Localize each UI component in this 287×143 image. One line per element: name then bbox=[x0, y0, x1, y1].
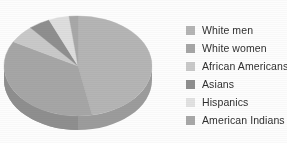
legend-swatch-icon bbox=[186, 26, 195, 35]
legend-item-african-americans[interactable]: African Americans bbox=[186, 57, 287, 75]
legend-item-white-women[interactable]: White women bbox=[186, 39, 287, 57]
pie-svg bbox=[0, 0, 180, 143]
legend-item-american-indians[interactable]: American Indians bbox=[186, 111, 287, 129]
legend-label: White women bbox=[202, 43, 267, 54]
legend-label: Asians bbox=[202, 79, 234, 90]
legend-swatch-icon bbox=[186, 44, 195, 53]
legend-item-white-men[interactable]: White men bbox=[186, 21, 287, 39]
legend-swatch-icon bbox=[186, 80, 195, 89]
pie-chart-figure: White men White women African Americans … bbox=[0, 0, 287, 143]
chart-legend: White men White women African Americans … bbox=[186, 21, 287, 129]
pie-slices bbox=[4, 16, 152, 116]
legend-swatch-icon bbox=[186, 116, 195, 125]
legend-swatch-icon bbox=[186, 62, 195, 71]
legend-swatch-icon bbox=[186, 98, 195, 107]
legend-label: African Americans bbox=[202, 61, 287, 72]
legend-item-asians[interactable]: Asians bbox=[186, 75, 287, 93]
pie-chart-graphic bbox=[0, 0, 180, 143]
legend-item-hispanics[interactable]: Hispanics bbox=[186, 93, 287, 111]
legend-label: Hispanics bbox=[202, 97, 248, 108]
legend-label: American Indians bbox=[202, 115, 285, 126]
legend-label: White men bbox=[202, 25, 253, 36]
